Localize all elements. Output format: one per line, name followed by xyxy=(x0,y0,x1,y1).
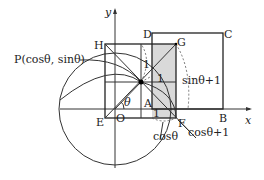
point-p-label: P(cosθ, sinθ) xyxy=(14,53,85,66)
theta-label: θ xyxy=(124,96,131,109)
point-d-label: D xyxy=(143,28,152,41)
sin-theta-plus-1-label: sinθ+1 xyxy=(182,74,221,87)
point-b-label: B xyxy=(219,112,227,125)
point-p xyxy=(139,80,144,85)
cos-theta-plus-1-label: cosθ+1 xyxy=(188,126,229,139)
y-axis-label: y xyxy=(104,6,112,19)
cos-theta-label: cosθ xyxy=(153,130,178,143)
point-h-label: H xyxy=(94,39,104,52)
y-axis-arrow xyxy=(113,8,117,14)
point-f-label: F xyxy=(178,117,186,130)
point-e-label: E xyxy=(96,116,104,129)
x-axis-arrow xyxy=(246,107,252,111)
unit-circle-diagram: y x O H D C G B A E F P(cosθ, sinθ) θ 1 … xyxy=(0,0,264,180)
one-bottom-label: 1 xyxy=(153,107,160,120)
one-vertical-label: 1 xyxy=(143,58,150,71)
one-horizontal-label: 1 xyxy=(157,72,164,85)
point-a-label: A xyxy=(143,97,153,110)
x-axis-label: x xyxy=(245,114,252,127)
leader-p xyxy=(80,60,141,82)
point-g-label: G xyxy=(177,36,186,49)
origin-label: O xyxy=(116,112,125,125)
point-c-label: C xyxy=(224,28,232,41)
